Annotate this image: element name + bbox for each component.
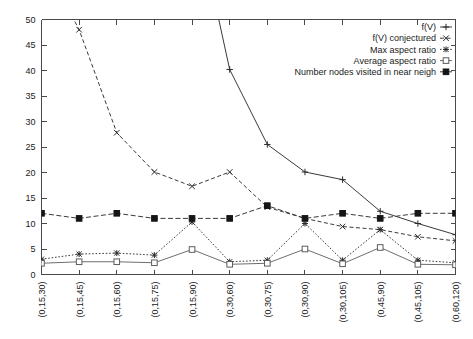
y-tick-label: 40: [25, 66, 35, 76]
y-tick-label: 10: [25, 219, 35, 229]
data-point-open-square: [152, 260, 158, 266]
series-line: [42, 222, 456, 263]
legend-label: f(V) conjectured: [372, 33, 436, 43]
data-point-open-square: [265, 260, 271, 266]
x-tick-label: (0,15,60): [112, 282, 122, 318]
x-tick-label: (0,30,105): [338, 282, 348, 323]
data-point-filled-square: [302, 216, 308, 222]
data-point-open-square: [76, 259, 82, 265]
data-point-open-square: [227, 262, 233, 268]
x-tick-label: (0,30,90): [300, 282, 310, 318]
data-point-legend-filled-square: [443, 69, 449, 75]
x-tick-label: (0,15,90): [188, 282, 198, 318]
x-tick-label: (0,60,120): [451, 282, 461, 323]
x-tick-label: (0,15,75): [150, 282, 160, 318]
data-point-open-square: [377, 245, 383, 251]
x-tick-label: (0,15,30): [37, 282, 47, 318]
y-tick-label: 15: [25, 193, 35, 203]
data-point-open-square: [415, 262, 421, 268]
data-point-cross: [227, 169, 233, 175]
line-chart: 05101520253035404550 (0,15,30)(0,15,45)(…: [0, 0, 473, 339]
y-tick-label: 50: [25, 15, 35, 25]
legend-label: Max aspect ratio: [370, 45, 436, 55]
y-tick-label: 35: [25, 91, 35, 101]
data-point-legend-open-square: [443, 58, 449, 64]
legend-label: Number nodes visited in near neigh: [294, 67, 436, 77]
x-tick-label: (0,30,60): [225, 282, 235, 318]
data-point-star: [76, 251, 82, 257]
series-line: [42, 206, 456, 219]
data-point-filled-square: [114, 211, 120, 217]
x-tick-label: (0,15,45): [75, 282, 85, 318]
data-point-star: [377, 227, 383, 233]
data-point-filled-square: [415, 211, 421, 217]
legend-label: Average aspect ratio: [354, 56, 436, 66]
data-point-plus: [452, 232, 458, 238]
data-point-cross: [152, 169, 158, 175]
data-point-plus: [415, 220, 421, 226]
data-point-cross: [76, 27, 82, 33]
data-point-open-square: [39, 260, 45, 266]
data-point-cross: [189, 183, 195, 189]
data-point-filled-square: [453, 211, 459, 217]
data-point-cross: [114, 130, 120, 136]
data-point-plus: [226, 66, 232, 72]
data-point-filled-square: [265, 203, 271, 209]
data-point-filled-square: [227, 216, 233, 222]
y-tick-label: 45: [25, 40, 35, 50]
data-point-filled-square: [189, 216, 195, 222]
data-point-legend-plus: [443, 24, 449, 30]
data-point-open-square: [302, 246, 308, 252]
y-axis-labels: 05101520253035404550: [25, 15, 35, 280]
legend-label: f(V): [422, 22, 437, 32]
data-point-star: [114, 250, 120, 256]
data-point-filled-square: [76, 216, 82, 222]
x-tick-label: (0,30,75): [263, 282, 273, 318]
legend: f(V)f(V) conjecturedMax aspect ratioAver…: [294, 22, 452, 77]
data-point-open-square: [189, 247, 195, 253]
y-tick-label: 0: [30, 270, 35, 280]
data-point-filled-square: [152, 216, 158, 222]
data-point-legend-star: [443, 46, 449, 52]
y-tick-label: 5: [30, 244, 35, 254]
y-tick-label: 20: [25, 168, 35, 178]
x-tick-label: (0,45,105): [413, 282, 423, 323]
data-point-open-square: [114, 259, 120, 265]
data-point-star: [151, 252, 157, 258]
data-point-filled-square: [377, 216, 383, 222]
series-line: [42, 247, 456, 264]
data-point-filled-square: [39, 211, 45, 217]
x-tick-label: (0,45,90): [376, 282, 386, 318]
chart-container: 05101520253035404550 (0,15,30)(0,15,45)(…: [0, 0, 473, 339]
y-tick-label: 30: [25, 117, 35, 127]
data-point-filled-square: [340, 211, 346, 217]
x-axis-labels: (0,15,30)(0,15,45)(0,15,60)(0,15,75)(0,1…: [37, 282, 461, 323]
data-point-open-square: [453, 262, 459, 268]
y-tick-label: 25: [25, 142, 35, 152]
data-point-open-square: [340, 261, 346, 267]
